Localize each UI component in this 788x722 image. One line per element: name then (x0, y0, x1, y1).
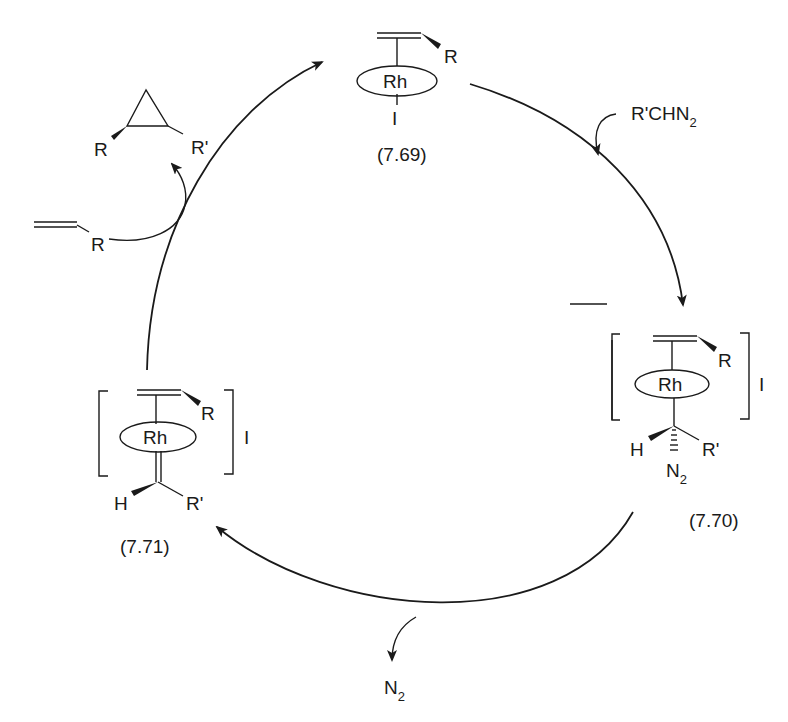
substituent-r-prime: R' (186, 493, 203, 514)
iodide-ligand: I (392, 108, 397, 129)
counter-ion-i: I (244, 427, 249, 448)
catalytic-cycle-diagram: R Rh I (7.69) R'CHN2 R Rh I (0, 0, 788, 722)
rh-metal-label: Rh (143, 427, 167, 448)
alkene-reagent: R (34, 222, 105, 255)
cycle-arrow-7-71-to-7-69 (147, 62, 322, 370)
n2-out-arrow (392, 617, 416, 660)
rh-metal-label: Rh (658, 374, 682, 395)
counter-ion-i: I (759, 374, 764, 395)
rh-metal-label: Rh (383, 71, 407, 92)
hydrogen-h: H (114, 493, 128, 514)
alkene-substituent-r: R (91, 234, 105, 255)
reagent-arrow-diazo (596, 114, 616, 154)
hashed-bond (670, 430, 678, 450)
reagent-diazo: R'CHN2 (631, 103, 697, 130)
compound-7-69: R Rh I (7.69) (357, 33, 458, 165)
diazo-n2: N2 (666, 460, 687, 487)
n2-byproduct: N2 (384, 677, 405, 704)
compound-label-7-70: (7.70) (689, 510, 739, 531)
alkene-substituent-r: R (718, 350, 732, 371)
hydrogen-h: H (630, 439, 644, 460)
cyclopropane-r: R (94, 139, 108, 160)
compound-label-7-69: (7.69) (377, 144, 427, 165)
compound-label-7-71: (7.71) (120, 536, 170, 557)
cyclopropane-product: R R' (94, 90, 208, 160)
compound-7-70: R Rh I H R' N2 (7.70) (570, 304, 764, 531)
n2-label: N2 (384, 677, 405, 704)
substituent-r-prime: R' (702, 439, 719, 460)
cycle-arrow-7-70-to-7-71 (217, 512, 633, 602)
alkene-substituent-r: R (201, 403, 215, 424)
compound-7-71: R Rh I H R' (7.71) (99, 390, 249, 557)
cyclopropane-r-prime: R' (191, 137, 208, 158)
diazo-formula: R'CHN2 (631, 103, 697, 130)
alkene-substituent-r: R (444, 46, 458, 67)
